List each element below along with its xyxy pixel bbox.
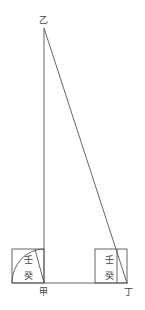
right-label-gui: 癸 [105, 270, 114, 281]
left-diagonal [35, 249, 44, 283]
right-label-ren: 壬 [105, 255, 114, 265]
left-label-ren: 壬 [24, 255, 33, 265]
geometry-diagram: 乙 甲 丁 壬 癸 壬 癸 [0, 0, 145, 310]
label-ding: 丁 [124, 287, 133, 297]
hypotenuse-yi-ding [44, 28, 127, 283]
label-yi: 乙 [39, 15, 48, 25]
label-jia: 甲 [39, 287, 48, 297]
left-label-gui: 癸 [24, 270, 33, 281]
